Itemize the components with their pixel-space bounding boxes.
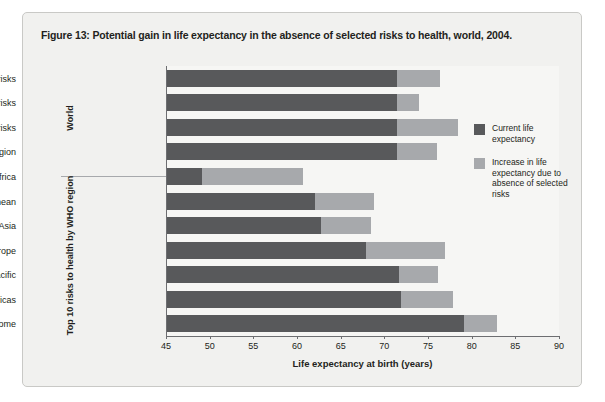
category-label: Africa: [0, 172, 16, 182]
x-axis-tick-mark: [253, 336, 254, 339]
legend-swatch: [474, 124, 485, 135]
legend-swatch: [474, 158, 485, 169]
bar-segment-current-life-expectancy: [166, 143, 397, 160]
x-axis-tick-mark: [166, 336, 167, 339]
bar-segment-current-life-expectancy: [166, 193, 315, 210]
legend-item: Increase in life expectancy due to absen…: [474, 157, 574, 199]
bar-segment-current-life-expectancy: [166, 315, 464, 332]
bar-segment-current-life-expectancy: [166, 217, 321, 234]
bar-segment-increase-life-expectancy: [321, 217, 372, 234]
category-label: Eastern Mediterranean: [0, 197, 16, 207]
legend-label: Increase in life expectancy due to absen…: [492, 157, 574, 199]
x-axis-tick-mark: [384, 336, 385, 339]
x-axis-tick-label: 45: [161, 341, 171, 351]
bar-segment-increase-life-expectancy: [397, 94, 419, 111]
category-label: Americas: [0, 295, 16, 305]
category-label: High income: [0, 319, 16, 329]
bar-segment-current-life-expectancy: [166, 242, 366, 259]
x-axis-tick-label: 70: [379, 341, 389, 351]
category-label: Top 10 risks by region: [0, 147, 16, 157]
group-separator-line: [61, 176, 171, 177]
bar-segment-current-life-expectancy: [166, 119, 397, 136]
bar-segment-increase-life-expectancy: [397, 143, 436, 160]
bar-segment-increase-life-expectancy: [397, 70, 440, 87]
legend-item: Current life expectancy: [474, 123, 574, 144]
bar-segment-current-life-expectancy: [166, 266, 399, 283]
x-axis-tick-mark: [472, 336, 473, 339]
x-axis-tick-mark: [428, 336, 429, 339]
figure-panel: Figure 13: Potential gain in life expect…: [22, 12, 582, 387]
bar-segment-increase-life-expectancy: [366, 242, 445, 259]
x-axis-tick-mark: [341, 336, 342, 339]
category-label: Europe: [0, 246, 16, 256]
group-label: Top 10 risks to health by WHO region: [65, 173, 75, 338]
bar-segment-current-life-expectancy: [166, 291, 401, 308]
x-axis-tick-mark: [515, 336, 516, 339]
x-axis-tick-mark: [559, 336, 560, 339]
x-axis-tick-label: 55: [248, 341, 258, 351]
x-axis-tick-label: 80: [467, 341, 477, 351]
bar-segment-increase-life-expectancy: [315, 193, 374, 210]
category-axis-labels: Eight cardiovascular risksSeven child ri…: [0, 66, 16, 336]
x-axis-title: Life expectancy at birth (years): [166, 358, 559, 369]
bar-segment-increase-life-expectancy: [401, 291, 453, 308]
category-label: Western Pacific: [0, 270, 16, 280]
x-axis-line: [166, 336, 559, 337]
x-axis-tick-label: 90: [554, 341, 564, 351]
bar-segment-increase-life-expectancy: [399, 266, 438, 283]
x-axis-tick-label: 85: [510, 341, 520, 351]
category-label: All 24 risks: [0, 123, 16, 133]
y-axis-line: [166, 66, 167, 337]
figure-title: Figure 13: Potential gain in life expect…: [41, 29, 561, 42]
group-label: World: [65, 68, 75, 168]
bar-segment-current-life-expectancy: [166, 168, 202, 185]
category-label: Eight cardiovascular risks: [0, 74, 16, 84]
x-axis-tick-label: 50: [205, 341, 215, 351]
x-axis-tick-label: 75: [423, 341, 433, 351]
x-axis-tick-label: 65: [336, 341, 346, 351]
bar-segment-increase-life-expectancy: [202, 168, 303, 185]
bar-segment-current-life-expectancy: [166, 94, 397, 111]
bar-segment-current-life-expectancy: [166, 70, 397, 87]
x-axis-tick-mark: [297, 336, 298, 339]
category-label: Seven child risks: [0, 98, 16, 108]
x-axis-tick-label: 60: [292, 341, 302, 351]
category-label: South-East Asia: [0, 221, 16, 231]
bar-segment-increase-life-expectancy: [464, 315, 497, 332]
legend: Current life expectancyIncrease in life …: [474, 123, 574, 212]
legend-label: Current life expectancy: [492, 123, 574, 144]
x-axis-tick-mark: [210, 336, 211, 339]
bar-segment-increase-life-expectancy: [397, 119, 457, 136]
